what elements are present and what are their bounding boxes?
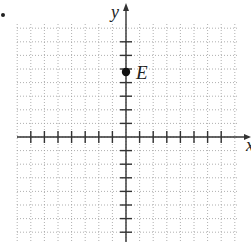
coordinate-plane: y x E — [0, 0, 251, 242]
axes — [17, 3, 251, 242]
x-axis-label: x — [245, 135, 251, 155]
bullet-marker — [1, 13, 5, 17]
y-axis-label: y — [109, 2, 119, 22]
point-marker — [122, 68, 130, 76]
point-label: E — [135, 62, 148, 83]
grid — [17, 24, 237, 242]
y-axis-arrow-icon — [123, 3, 129, 11]
